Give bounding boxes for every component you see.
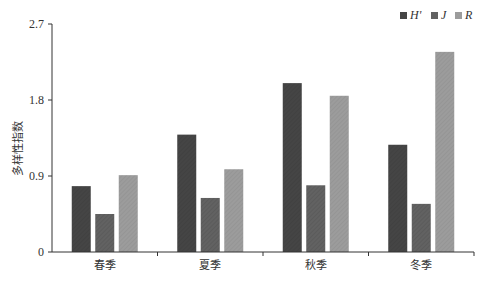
- bar-R-2: [330, 96, 349, 252]
- legend: H'JR: [400, 8, 473, 22]
- bar-H-0: [72, 186, 91, 252]
- bars-group: [72, 52, 455, 252]
- y-tick-label: 0: [38, 245, 44, 259]
- x-category-label: 春季: [94, 259, 116, 272]
- x-category-label: 夏季: [199, 259, 221, 272]
- legend-swatch: [455, 12, 462, 19]
- x-category-label: 秋季: [305, 258, 327, 272]
- x-category-label: 冬季: [410, 258, 432, 272]
- legend-label: H': [409, 8, 422, 22]
- y-tick-label: 2.7: [29, 17, 44, 31]
- bar-H-3: [388, 145, 407, 252]
- bar-chart: 00.91.82.7多样性指数春季夏季秋季冬季 H'JR: [0, 0, 488, 286]
- bar-H-2: [283, 83, 302, 252]
- legend-swatch: [400, 12, 407, 19]
- bar-R-3: [435, 52, 454, 252]
- bar-J-2: [306, 185, 325, 252]
- y-tick-label: 0.9: [29, 169, 44, 183]
- bar-R-1: [224, 169, 243, 252]
- bar-R-0: [119, 175, 138, 252]
- y-axis-label: 多样性指数: [11, 121, 25, 176]
- bar-J-3: [412, 204, 431, 252]
- bar-J-0: [95, 214, 114, 252]
- bar-J-1: [201, 198, 220, 252]
- legend-swatch: [431, 12, 438, 19]
- y-tick-label: 1.8: [29, 93, 44, 107]
- legend-label: R: [464, 8, 473, 22]
- legend-label: J: [441, 8, 447, 22]
- bar-H-1: [177, 135, 196, 252]
